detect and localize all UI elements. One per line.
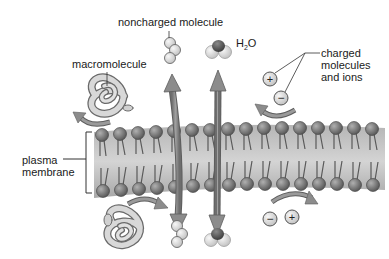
plasma-membrane-label-line2: membrane <box>22 166 75 178</box>
svg-text:+: + <box>289 211 295 223</box>
ions-bounce-arrow-bottom <box>272 191 318 204</box>
charged-label-line1: charged <box>321 47 361 59</box>
water-molecule-top <box>206 40 232 59</box>
noncharged-molecule-label: noncharged molecule <box>118 16 223 28</box>
macromolecule-bottom-bounce-arrow <box>128 197 168 209</box>
minus-ion-symbol: − <box>277 91 284 105</box>
charged-ions-bottom: − + <box>263 210 299 226</box>
macromolecule-bottom <box>104 208 140 245</box>
noncharged-molecule-top <box>165 38 181 64</box>
charged-label-line3: and ions <box>321 71 363 83</box>
water-label: H2O <box>236 37 256 54</box>
water-molecule-bottom <box>205 228 231 247</box>
plus-ion-symbol: + <box>267 73 273 85</box>
macromolecule-label: macromolecule <box>72 58 147 70</box>
charged-label-line2: molecules <box>321 59 371 71</box>
macromolecule-top <box>91 77 133 114</box>
plasma-membrane <box>94 122 385 199</box>
svg-text:−: − <box>266 212 273 226</box>
membrane-permeability-diagram: + − − + noncharged molecule H2O macromol… <box>0 0 389 259</box>
plasma-membrane-label-line1: plasma <box>22 154 57 166</box>
diagram-canvas: + − − + <box>0 0 389 259</box>
charged-ions-top: + − <box>263 53 320 105</box>
noncharged-molecule-bottom <box>172 221 188 248</box>
membrane-bracket <box>63 132 92 193</box>
ions-bounce-arrow-top <box>255 104 295 116</box>
